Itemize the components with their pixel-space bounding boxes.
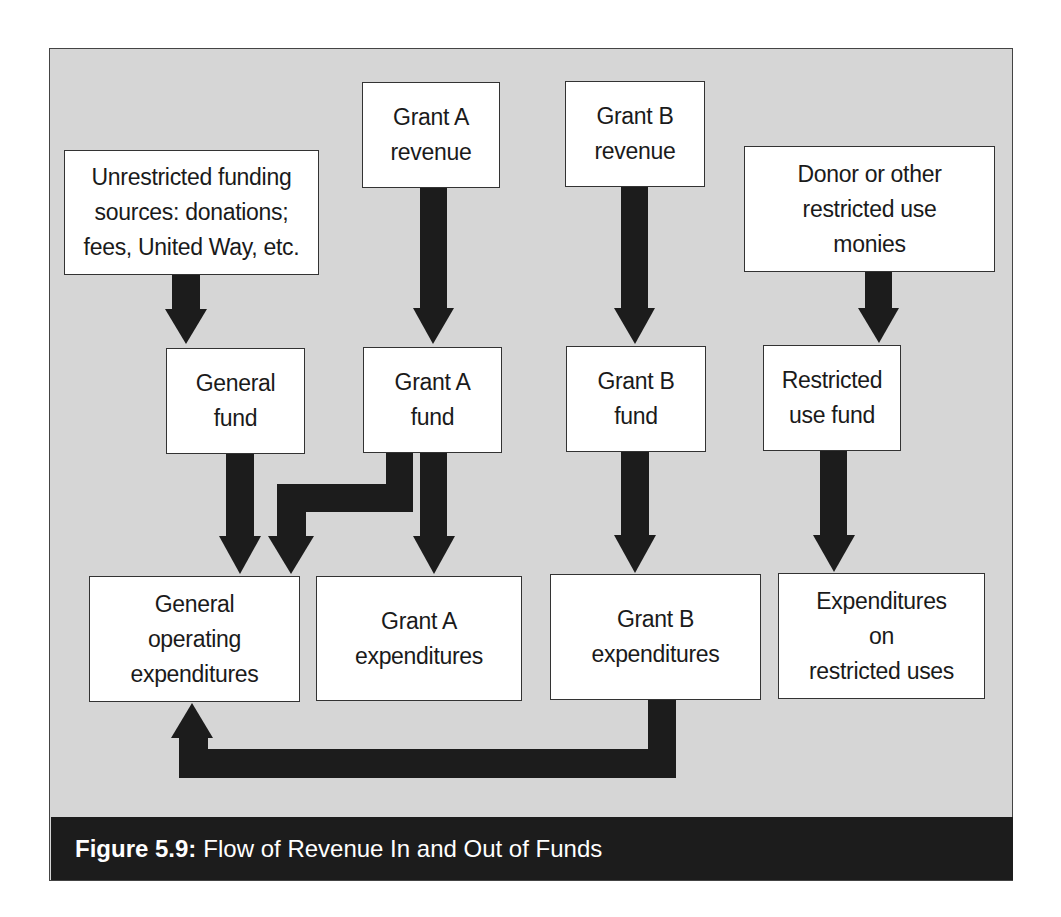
node-donor-restricted: Donor or other restricted use monies [744, 146, 995, 272]
node-unrestricted-sources: Unrestricted funding sources: donations;… [64, 150, 319, 275]
arrow-general-fund-to-operating [219, 453, 261, 574]
node-grant-a-expenditures: Grant A expenditures [316, 576, 522, 701]
node-grant-a-revenue: Grant A revenue [362, 82, 500, 188]
node-general-operating-expenditures: General operating expenditures [89, 576, 300, 702]
node-grant-a-fund: Grant A fund [363, 347, 502, 453]
arrow-grant-a-fund-to-operating [268, 452, 413, 574]
arrow-donor-to-restricted-fund [858, 271, 899, 343]
arrow-grant-a-revenue-to-fund [413, 187, 454, 344]
arrow-grant-b-fund-to-expenditures [614, 451, 656, 573]
node-grant-b-fund: Grant B fund [566, 346, 706, 452]
arrow-unrestricted-to-general-fund [165, 274, 207, 344]
arrow-grant-a-fund-to-expenditures [413, 452, 455, 574]
arrow-grant-b-revenue-to-fund [614, 186, 655, 344]
flow-arrows [0, 0, 1061, 917]
arrow-grant-b-expenditures-to-operating [171, 699, 676, 778]
node-general-fund: General fund [166, 348, 305, 454]
node-grant-b-revenue: Grant B revenue [565, 81, 705, 187]
node-restricted-expenditures: Expenditures on restricted uses [778, 573, 985, 699]
caption-label: Figure 5.9: [75, 835, 196, 863]
node-grant-b-expenditures: Grant B expenditures [550, 574, 761, 700]
caption-title: Flow of Revenue In and Out of Funds [203, 835, 602, 863]
arrow-restricted-fund-to-expenditures [813, 450, 855, 572]
figure-caption: Figure 5.9: Flow of Revenue In and Out o… [51, 817, 1013, 880]
node-restricted-use-fund: Restricted use fund [763, 345, 901, 451]
